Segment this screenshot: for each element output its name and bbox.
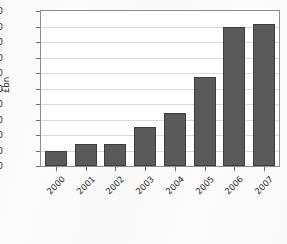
y-axis-tick-label: 160 [0,38,3,46]
bar-slot [101,11,131,166]
y-axis-tick-label: 120 [0,69,3,77]
x-axis-tick-mark [86,167,87,171]
bar [164,113,186,166]
y-axis-tick-label: 80 [0,100,3,108]
bar-slot [160,11,190,166]
y-axis-tick-label: 40 [0,131,3,139]
x-axis-tick-mark [234,167,235,171]
bar-slot [190,11,220,166]
x-axis-tick-label: 2001 [70,174,97,201]
y-axis-tick-label: 0 [0,162,3,170]
y-axis-tick-label: 100 [0,85,3,93]
y-axis-tick-label: 180 [0,23,3,31]
y-axis-tick-label: 200 [0,7,3,15]
bar [253,24,275,166]
x-axis-tick-label: 2000 [40,174,67,201]
bar-slot [220,11,250,166]
bar [104,144,126,166]
bar-slot [130,11,160,166]
x-axis-tick-mark [115,167,116,171]
x-axis-tick-mark [205,167,206,171]
x-axis-tick-label: 2007 [248,174,275,201]
x-axis-tick-mark [56,167,57,171]
bar-chart: £bn 020406080100120140160180200 20002001… [0,0,287,244]
bar [45,151,67,167]
bar-slot [249,11,279,166]
y-axis-tick-label: 60 [0,116,3,124]
bar [194,77,216,166]
bar-slot [71,11,101,166]
y-axis-tick-label: 140 [0,54,3,62]
x-axis-tick-label: 2002 [100,174,127,201]
x-axis-tick-label: 2005 [189,174,216,201]
x-axis-tick-mark [264,167,265,171]
x-axis-tick-label: 2003 [129,174,156,201]
bar [75,144,97,166]
x-axis-tick-label: 2004 [159,174,186,201]
bar [134,127,156,167]
bar-slot [41,11,71,166]
bar [223,27,245,166]
x-axis-tick-label: 2006 [219,174,246,201]
y-axis-tick-label: 20 [0,147,3,155]
x-axis-tick-mark [145,167,146,171]
bar-series [41,11,279,166]
x-axis-tick-mark [175,167,176,171]
